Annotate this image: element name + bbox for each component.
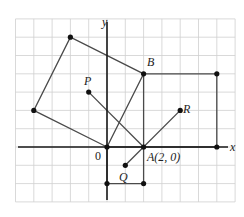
point-a bbox=[141, 144, 146, 149]
point-label-q: Q bbox=[119, 170, 128, 184]
x-axis-label: x bbox=[229, 140, 236, 154]
segment-PA bbox=[89, 92, 144, 147]
coordinate-diagram: x y 0 A(2, 0) B P Q R bbox=[0, 0, 244, 217]
point-q bbox=[123, 163, 128, 168]
point-p bbox=[86, 90, 91, 95]
point-b bbox=[141, 71, 146, 76]
point-label-b: B bbox=[147, 55, 155, 69]
vertex-point bbox=[68, 35, 73, 40]
vertex-point bbox=[104, 181, 109, 186]
vertex-point bbox=[214, 71, 219, 76]
point-o bbox=[104, 144, 109, 149]
vertex-point bbox=[214, 144, 219, 149]
vertex-point bbox=[31, 108, 36, 113]
vertex-point bbox=[141, 181, 146, 186]
origin-label: 0 bbox=[95, 149, 101, 163]
point-label-r: R bbox=[182, 102, 191, 116]
point-label-p: P bbox=[83, 74, 92, 88]
y-axis-label: y bbox=[101, 15, 108, 29]
point-label-a: A(2, 0) bbox=[146, 150, 180, 164]
